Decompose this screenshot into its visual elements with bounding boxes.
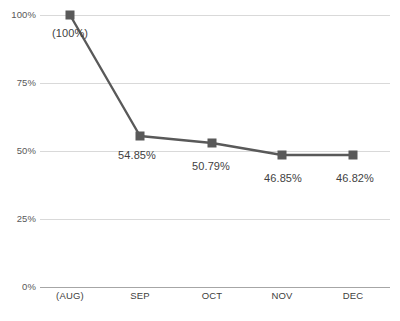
y-axis-tick-100: 100%: [2, 10, 36, 20]
x-axis-tick-dec: DEC: [343, 291, 364, 301]
x-axis-tick-oct: OCT: [202, 291, 223, 301]
data-label-aug: (100%): [52, 28, 88, 39]
plot-area: [40, 15, 390, 287]
y-axis: 100% 75% 50% 25% 0%: [0, 15, 36, 287]
gridline-75: [40, 83, 390, 84]
gridline-25: [40, 219, 390, 220]
x-axis-tick-sep: SEP: [130, 291, 150, 301]
y-axis-tick-0: 0%: [2, 282, 36, 292]
data-label-nov: 46.85%: [264, 173, 302, 184]
line-chart: 100% 75% 50% 25% 0% (100%) 54.85% 50.79%…: [0, 0, 400, 321]
data-label-dec: 46.82%: [336, 173, 374, 184]
y-axis-tick-50: 50%: [2, 146, 36, 156]
data-label-oct: 50.79%: [192, 161, 230, 172]
gridline-100: [40, 15, 390, 16]
x-axis-line: [40, 287, 390, 288]
x-axis: (AUG) SEP OCT NOV DEC: [40, 291, 390, 307]
y-axis-tick-25: 25%: [2, 214, 36, 224]
x-axis-tick-aug: (AUG): [56, 291, 84, 301]
x-axis-tick-nov: NOV: [271, 291, 292, 301]
gridline-50: [40, 151, 390, 152]
data-label-sep: 54.85%: [118, 150, 156, 161]
y-axis-tick-75: 75%: [2, 78, 36, 88]
